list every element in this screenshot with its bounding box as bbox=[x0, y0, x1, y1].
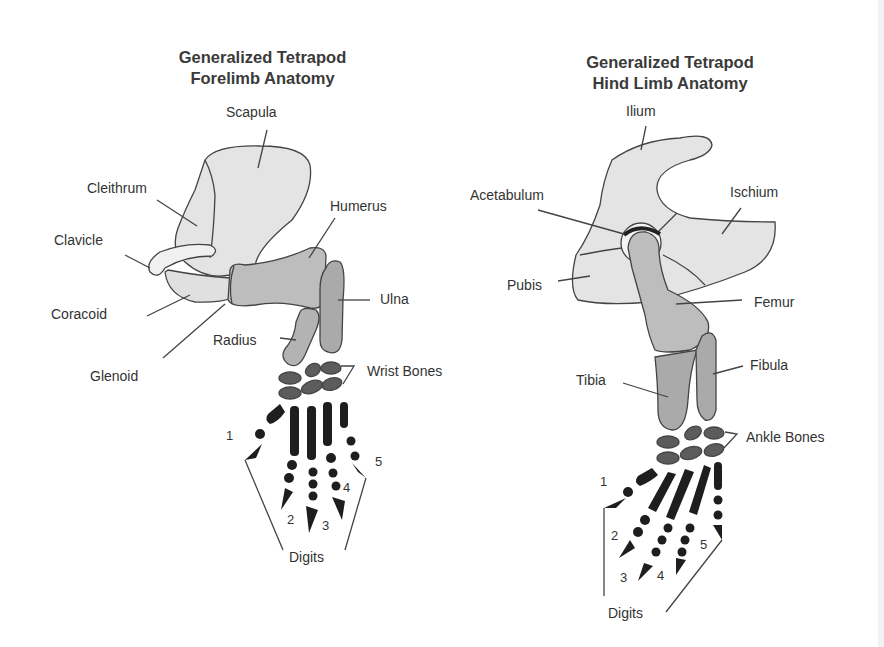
forelimb-digit-1: 1 bbox=[226, 428, 233, 443]
label-scapula: Scapula bbox=[226, 104, 277, 120]
forelimb-digit-4: 4 bbox=[343, 480, 350, 495]
forelimb-title-line1: Generalized Tetrapod bbox=[140, 47, 385, 68]
radius-shape bbox=[283, 308, 319, 365]
tibia-shape bbox=[655, 350, 697, 430]
hindlimb-digit-4: 4 bbox=[657, 568, 664, 583]
forelimb-digit-3: 3 bbox=[322, 518, 329, 533]
label-femur: Femur bbox=[754, 294, 794, 310]
hindlimb-title-line2: Hind Limb Anatomy bbox=[555, 73, 785, 94]
label-fibula: Fibula bbox=[750, 357, 788, 373]
forelimb-title: Generalized Tetrapod Forelimb Anatomy bbox=[140, 47, 385, 89]
forelimb-digit-2: 2 bbox=[287, 512, 294, 527]
label-wrist-bones: Wrist Bones bbox=[367, 363, 442, 379]
label-coracoid: Coracoid bbox=[51, 306, 107, 322]
label-ilium: Ilium bbox=[626, 103, 656, 119]
hindlimb-digit-2: 2 bbox=[611, 528, 618, 543]
page-edge bbox=[878, 0, 884, 647]
hindlimb-title-line1: Generalized Tetrapod bbox=[555, 52, 785, 73]
label-ankle-bones: Ankle Bones bbox=[746, 429, 825, 445]
label-ulna: Ulna bbox=[380, 291, 409, 307]
label-tibia: Tibia bbox=[576, 372, 606, 388]
hindlimb-digit-3: 3 bbox=[620, 570, 627, 585]
label-clavicle: Clavicle bbox=[54, 232, 103, 248]
pelvis-shape bbox=[572, 136, 775, 303]
hindlimb-digit-1: 1 bbox=[600, 474, 607, 489]
fibula-shape bbox=[696, 333, 716, 420]
label-radius: Radius bbox=[213, 332, 257, 348]
hindlimb-digit-5: 5 bbox=[700, 537, 707, 552]
label-glenoid: Glenoid bbox=[90, 368, 138, 384]
label-hindlimb-digits: Digits bbox=[608, 605, 643, 621]
label-cleithrum: Cleithrum bbox=[87, 180, 147, 196]
label-humerus: Humerus bbox=[330, 198, 387, 214]
forelimb-title-line2: Forelimb Anatomy bbox=[140, 68, 385, 89]
label-pubis: Pubis bbox=[507, 277, 542, 293]
ulna-shape bbox=[320, 261, 344, 353]
label-ischium: Ischium bbox=[730, 184, 778, 200]
label-forelimb-digits: Digits bbox=[289, 549, 324, 565]
forelimb-digit-5: 5 bbox=[375, 454, 382, 469]
anatomy-illustration bbox=[0, 0, 884, 647]
label-acetabulum: Acetabulum bbox=[470, 187, 544, 203]
hindlimb-title: Generalized Tetrapod Hind Limb Anatomy bbox=[555, 52, 785, 94]
